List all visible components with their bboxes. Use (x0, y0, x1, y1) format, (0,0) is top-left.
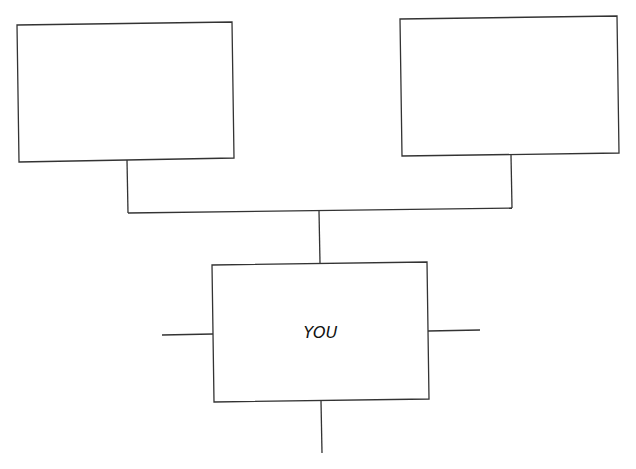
family-tree-diagram (0, 0, 636, 469)
descendant-stub (321, 401, 322, 453)
right-sibling-stub (428, 330, 480, 331)
parent-right-connector (511, 155, 512, 208)
parent-left-connector (127, 160, 128, 213)
self-box[interactable] (212, 262, 429, 402)
parents-horizontal-line (128, 208, 512, 213)
parent-left-box[interactable] (17, 22, 234, 162)
child-connector (319, 211, 320, 263)
parent-right-box[interactable] (400, 16, 619, 156)
left-sibling-stub (162, 334, 213, 335)
